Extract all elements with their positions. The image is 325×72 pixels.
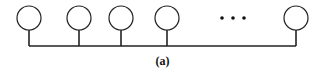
node-3-circle: [109, 6, 133, 30]
figure-caption: (a): [0, 54, 325, 69]
dot-icon: [242, 16, 246, 20]
ellipsis-dots: [220, 16, 246, 20]
dot-icon: [231, 16, 235, 20]
dot-icon: [220, 16, 224, 20]
node-n-circle: [284, 6, 308, 30]
node-4-circle: [155, 6, 179, 30]
node-2-circle: [67, 6, 91, 30]
nodes-group: [17, 6, 308, 46]
node-1-circle: [17, 6, 41, 30]
